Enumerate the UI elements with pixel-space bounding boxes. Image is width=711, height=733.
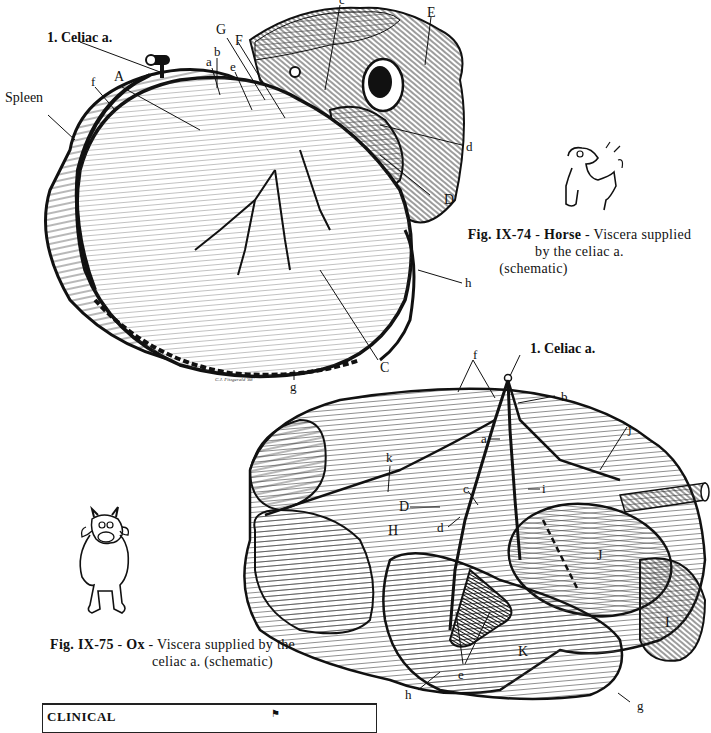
ox-figure-caption: Fig. IX-75 - Ox - Viscera supplied by th…	[15, 636, 330, 670]
horse-label-D: D	[444, 193, 454, 207]
clinical-box-title: CLINICAL	[47, 709, 116, 725]
horse-figure-caption: Fig. IX-74 - Horse - Viscera supplied by…	[448, 226, 711, 277]
ox-caption-number: Fig. IX-75	[50, 637, 114, 652]
clinical-box: CLINICAL ⚑	[42, 703, 377, 733]
horse-label-d: d	[466, 140, 473, 153]
ox-label-f: f	[473, 348, 477, 361]
horse-label-g: g	[290, 380, 297, 393]
horse-cartoon	[566, 142, 623, 210]
clinical-box-icon: ⚑	[271, 708, 280, 719]
ox-label-K: K	[518, 645, 528, 659]
horse-caption-species: Horse	[544, 227, 581, 242]
horse-caption-line3: (schematic)	[448, 260, 711, 277]
ox-label-c: c	[463, 482, 469, 495]
horse-label-e: e	[230, 60, 236, 73]
ox-label-D: D	[399, 500, 409, 514]
horse-label-G: G	[216, 23, 226, 37]
horse-label-spleen: Spleen	[5, 91, 43, 105]
horse-caption-number: Fig. IX-74	[468, 227, 532, 242]
horse-label-a: a	[206, 55, 212, 68]
ox-label-J: J	[597, 549, 602, 563]
ox-label-H: H	[388, 524, 398, 538]
horse-label-E: E	[427, 6, 436, 20]
artist-signature: C.J. Fitzgerald '88	[215, 377, 252, 382]
horse-celiac-artery-label: 1. Celiac a.	[47, 31, 112, 45]
ox-label-k: k	[386, 451, 393, 464]
ox-label-h: h	[405, 688, 412, 701]
ox-label-b: b	[561, 390, 568, 403]
horse-label-F: F	[235, 34, 243, 48]
ox-cartoon	[80, 507, 128, 613]
ox-label-i: i	[542, 482, 546, 495]
ox-label-d: d	[437, 521, 444, 534]
horse-label-h: h	[465, 276, 472, 289]
horse-label-C: C	[380, 361, 389, 375]
horse-caption-line2: by the celiac a.	[448, 243, 711, 260]
horse-viscera-drawing	[46, 5, 465, 380]
ox-caption-line2: celiac a. (schematic)	[15, 653, 330, 670]
horse-caption-line1: - Viscera supplied	[585, 227, 691, 242]
ox-celiac-artery-label: 1. Celiac a.	[530, 342, 595, 356]
horse-label-f: f	[91, 75, 95, 88]
ox-label-a: a	[481, 432, 487, 445]
ox-caption-line1: - Viscera supplied by the	[149, 637, 295, 652]
ox-label-e: e	[458, 668, 464, 681]
horse-label-A: A	[114, 70, 124, 84]
ox-label-g: g	[637, 699, 644, 712]
horse-label-b: b	[214, 45, 221, 58]
ox-caption-species: Ox	[126, 637, 145, 652]
horse-label-c: c	[339, 0, 345, 6]
ox-label-j: j	[628, 422, 632, 435]
ox-label-I: I	[665, 616, 670, 630]
